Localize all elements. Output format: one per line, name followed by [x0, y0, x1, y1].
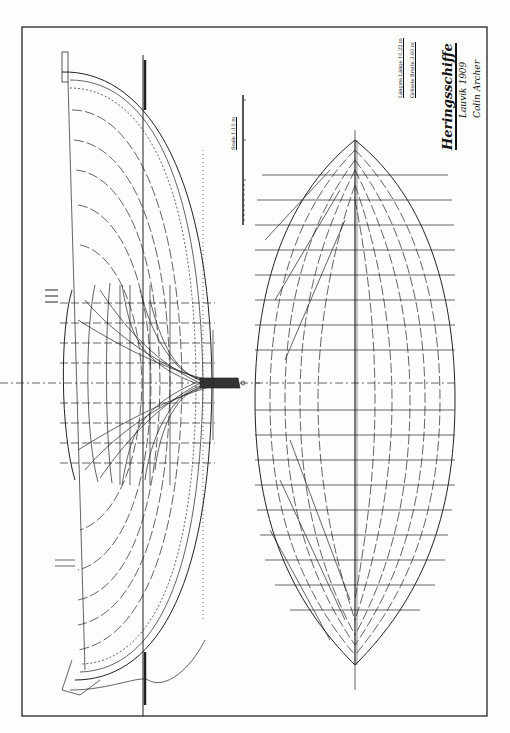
spec-breadth: Grösste Breite 3.60 m: [409, 42, 416, 98]
half-breadth-plan: [255, 130, 455, 690]
signature-author: Colin Archer: [472, 60, 482, 118]
scale-bar: [243, 95, 246, 225]
lines-plan-drawing: [0, 0, 510, 733]
drawing-title: Heringsschiffe: [440, 43, 457, 150]
signature-place-date: Lauvik 1909: [458, 62, 468, 118]
scale-label: Scale 1:10 m: [230, 117, 237, 150]
body-plan: [60, 283, 245, 485]
border-frame: [22, 27, 487, 716]
drawing-sheet: Heringsschiffe Lauvik 1909 Colin Archer …: [0, 0, 510, 733]
spec-length: Längste Länge 10.22 m: [397, 38, 404, 98]
